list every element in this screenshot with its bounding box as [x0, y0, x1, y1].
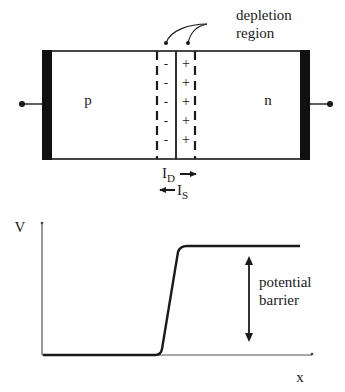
p-region-label: p [84, 92, 92, 108]
svg-text:IS: IS [177, 182, 188, 201]
barrier-label-line2: barrier [259, 292, 299, 308]
minus-sign: - [164, 56, 168, 71]
x-axis-tip [311, 353, 314, 356]
plus-sign: + [182, 113, 190, 128]
right-terminal-dot [327, 101, 333, 107]
negative-charges: - - - - - [164, 56, 168, 147]
depletion-pointer-right [188, 24, 207, 43]
plus-sign: + [182, 94, 190, 109]
potential-barrier-arrow [245, 256, 253, 342]
minus-sign: - [164, 132, 168, 147]
barrier-label-line1: potential [259, 274, 312, 290]
pn-junction-diagram: p n - - - - - + + + + + depletion region… [0, 0, 345, 392]
plus-sign: + [182, 132, 190, 147]
depletion-label-line1: depletion [236, 7, 292, 23]
y-axis-tip [41, 222, 44, 225]
junction-block: p n - - - - - + + + + + depletion region… [19, 7, 333, 201]
plus-sign: + [182, 56, 190, 71]
plus-sign: + [182, 75, 190, 90]
minus-sign: - [164, 75, 168, 90]
svg-text:ID: ID [162, 165, 175, 184]
left-terminal-dot [19, 101, 25, 107]
left-metal-contact [42, 50, 52, 160]
positive-charges: + + + + + [182, 56, 190, 147]
n-region-label: n [264, 92, 272, 108]
depletion-label-line2: region [236, 25, 275, 41]
x-axis-label: x [296, 369, 304, 385]
right-metal-contact [300, 50, 310, 160]
y-axis-label: V [15, 219, 26, 235]
depletion-pointer-left [166, 24, 207, 43]
diffusion-current-label: IS [160, 182, 188, 201]
minus-sign: - [164, 113, 168, 128]
potential-plot: V x potential barrier [15, 219, 314, 385]
minus-sign: - [164, 94, 168, 109]
